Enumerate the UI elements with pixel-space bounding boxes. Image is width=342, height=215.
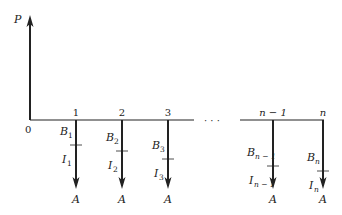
principal-part-subscript: 2 <box>114 137 119 146</box>
period-2: 2B2I2A <box>105 107 128 206</box>
principal-label: P <box>13 13 22 26</box>
interest-part-subscript: n − 1 <box>254 180 275 189</box>
period-3: 3B3I3A <box>151 107 174 206</box>
principal-part-label: B <box>105 131 114 144</box>
annuity-label: A <box>71 193 80 206</box>
period-label: n − 1 <box>259 107 287 118</box>
principal-part-label: B <box>306 151 315 164</box>
period-label: 2 <box>119 107 125 118</box>
interest-part-subscript: 3 <box>159 173 164 182</box>
ellipsis: · · · <box>204 115 220 126</box>
interest-part-subscript: 2 <box>113 165 118 174</box>
interest-part-subscript: 1 <box>67 159 72 168</box>
period-1: 1B1I1A <box>59 107 82 206</box>
principal-part-subscript: 3 <box>160 145 165 154</box>
principal-part-label: B <box>59 125 68 138</box>
period-label: n <box>320 107 326 118</box>
period-label: 1 <box>73 107 79 118</box>
principal-part-label: B <box>246 146 255 159</box>
annuity-label: A <box>163 193 172 206</box>
cash-flow-diagram: P · · · 0 1B1I1A2B2I2A3B3I3An − 1Bn − 1I… <box>0 0 342 215</box>
annuity-label: A <box>318 193 327 206</box>
period-5: nBnInA <box>306 107 329 206</box>
annuity-label: A <box>268 193 277 206</box>
period-4: n − 1Bn − 1In − 1A <box>246 107 287 206</box>
principal-part-label: B <box>151 139 160 152</box>
annuity-label: A <box>117 193 126 206</box>
period-label: 3 <box>165 107 171 118</box>
principal-part-subscript: n − 1 <box>255 152 276 161</box>
principal-part-subscript: 1 <box>68 131 73 140</box>
origin-label: 0 <box>25 124 31 135</box>
principal-part-subscript: n <box>315 157 320 166</box>
